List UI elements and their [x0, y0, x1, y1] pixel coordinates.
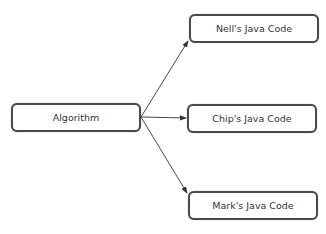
arrow-to-nell — [141, 41, 188, 117]
chip-java-code-node: Chip's Java Code — [187, 104, 317, 133]
nell-label: Nell's Java Code — [216, 23, 292, 34]
mark-label: Mark's Java Code — [212, 200, 293, 211]
mark-java-code-node: Mark's Java Code — [188, 191, 318, 220]
algorithm-label: Algorithm — [53, 112, 100, 123]
arrow-to-mark — [141, 117, 187, 193]
arrow-to-chip — [141, 117, 186, 118]
chip-label: Chip's Java Code — [212, 113, 291, 124]
nell-java-code-node: Nell's Java Code — [189, 14, 319, 43]
algorithm-node: Algorithm — [11, 103, 141, 132]
